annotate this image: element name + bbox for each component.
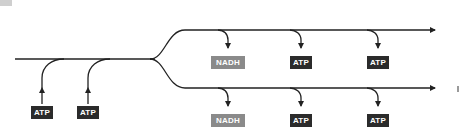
upper-output-arrow-atp-1	[290, 30, 301, 48]
upper-output-arrow-nadh	[218, 30, 228, 48]
input-arrowhead-1	[39, 87, 45, 93]
lower-output-arrow-atp-2	[367, 88, 378, 106]
lower-atp-box-2: ATP	[367, 114, 389, 127]
input-arrow-1	[42, 59, 64, 104]
lower-output-arrow-nadh	[218, 88, 228, 106]
edge-fragment	[457, 86, 459, 92]
input-atp-box-2: ATP	[77, 106, 99, 119]
input-arrowhead-2	[85, 87, 91, 93]
lower-nadh-box: NADH	[211, 114, 245, 127]
input-atp-box-1: ATP	[31, 106, 53, 119]
fork-upper-curve	[150, 30, 435, 59]
upper-output-arrow-atp-2	[367, 30, 378, 48]
upper-atp-box-2: ATP	[367, 56, 389, 69]
lower-output-arrow-atp-1	[290, 88, 301, 106]
upper-atp-box-1: ATP	[290, 56, 312, 69]
upper-nadh-box: NADH	[211, 56, 245, 69]
input-arrow-2	[88, 59, 110, 104]
lower-atp-box-1: ATP	[290, 114, 312, 127]
